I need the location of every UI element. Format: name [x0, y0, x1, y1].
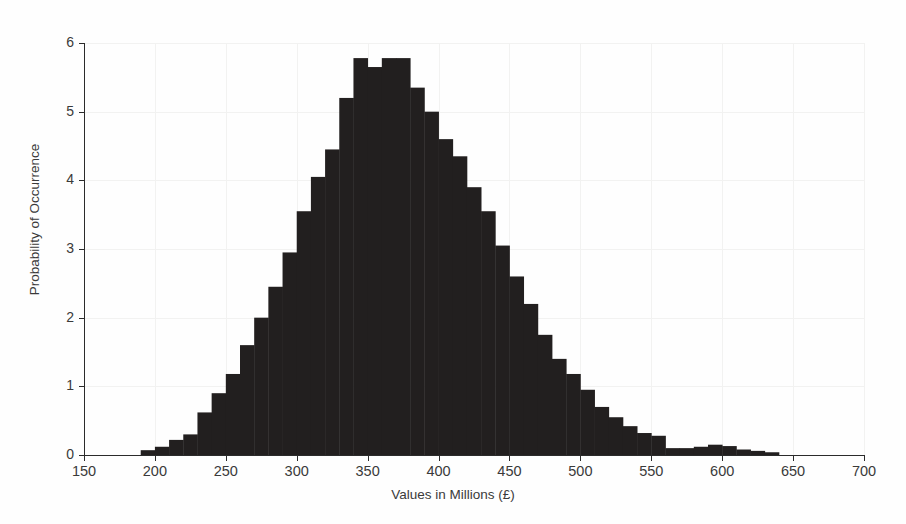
histogram-bar — [665, 448, 680, 455]
x-tick-mark — [439, 456, 440, 461]
y-tick-mark — [79, 180, 84, 181]
y-tick-mark — [79, 43, 84, 44]
x-tick-label: 700 — [834, 464, 894, 479]
histogram-bar — [481, 211, 496, 455]
x-tick-mark — [651, 456, 652, 461]
histogram-bar — [623, 426, 638, 455]
x-axis-label: Values in Millions (£) — [0, 487, 906, 502]
histogram-bar — [155, 447, 170, 455]
x-tick-mark — [84, 456, 85, 461]
y-axis-label: Probability of Occurrence — [27, 90, 42, 350]
histogram-bar — [212, 393, 227, 455]
x-tick-label: 300 — [267, 464, 327, 479]
histogram-bar — [396, 58, 411, 455]
x-tick-label: 350 — [338, 464, 398, 479]
y-tick-label: 3 — [44, 241, 74, 255]
x-tick-label: 600 — [692, 464, 752, 479]
histogram-bar — [467, 187, 482, 455]
histogram-bar — [566, 374, 581, 455]
histogram-bar — [637, 433, 652, 455]
x-tick-label: 550 — [621, 464, 681, 479]
y-axis-line — [84, 43, 85, 456]
histogram-bar — [722, 446, 737, 455]
histogram-bar — [524, 304, 539, 455]
x-axis-line — [84, 455, 865, 456]
histogram-bar — [368, 67, 383, 455]
y-tick-label: 5 — [44, 104, 74, 118]
histogram-bar — [183, 434, 198, 455]
x-tick-label: 150 — [54, 464, 114, 479]
y-tick-mark — [79, 249, 84, 250]
histogram-bar — [197, 412, 212, 455]
histogram-bar — [495, 246, 510, 455]
histogram-bars — [84, 43, 864, 455]
histogram-bar — [580, 390, 595, 455]
x-tick-label: 200 — [125, 464, 185, 479]
histogram-bar — [552, 359, 567, 455]
histogram-bar — [651, 436, 666, 455]
histogram-bar — [424, 112, 439, 455]
histogram-bar — [339, 98, 354, 455]
y-tick-label: 0 — [44, 447, 74, 461]
histogram-bar — [226, 374, 241, 455]
y-tick-mark — [79, 318, 84, 319]
y-tick-mark — [79, 386, 84, 387]
x-tick-label: 450 — [479, 464, 539, 479]
histogram-bar — [708, 445, 723, 455]
histogram-bar — [680, 448, 695, 455]
histogram-bar — [609, 417, 624, 455]
x-tick-label: 400 — [409, 464, 469, 479]
histogram-bar — [453, 156, 468, 455]
x-tick-mark — [864, 456, 865, 461]
x-tick-label: 500 — [550, 464, 610, 479]
x-tick-mark — [793, 456, 794, 461]
y-tick-label: 4 — [44, 172, 74, 186]
x-tick-mark — [722, 456, 723, 461]
histogram-bar — [694, 447, 709, 455]
x-tick-mark — [368, 456, 369, 461]
histogram-bar — [283, 252, 298, 455]
x-tick-mark — [580, 456, 581, 461]
x-tick-mark — [297, 456, 298, 461]
histogram-bar — [439, 139, 454, 455]
histogram-bar — [325, 149, 340, 455]
histogram-bar — [538, 335, 553, 455]
plot-area — [84, 43, 864, 455]
gridline-vertical — [864, 43, 865, 455]
histogram-bar — [382, 58, 397, 455]
histogram-bar — [353, 58, 368, 455]
histogram-bar — [311, 177, 326, 455]
y-tick-label: 6 — [44, 35, 74, 49]
x-tick-mark — [155, 456, 156, 461]
histogram-bar — [169, 440, 184, 455]
histogram-figure: 0123456 15020025030035040045050055060065… — [0, 0, 906, 524]
x-tick-mark — [509, 456, 510, 461]
y-tick-label: 1 — [44, 378, 74, 392]
histogram-bar — [410, 88, 425, 455]
x-tick-label: 650 — [763, 464, 823, 479]
histogram-bar — [254, 318, 269, 455]
histogram-bar — [509, 276, 524, 455]
y-tick-label: 2 — [44, 310, 74, 324]
histogram-bar — [595, 407, 610, 455]
histogram-bar — [240, 345, 255, 455]
y-tick-mark — [79, 112, 84, 113]
x-tick-label: 250 — [196, 464, 256, 479]
histogram-bar — [297, 211, 312, 455]
histogram-bar — [268, 287, 283, 455]
x-tick-mark — [226, 456, 227, 461]
